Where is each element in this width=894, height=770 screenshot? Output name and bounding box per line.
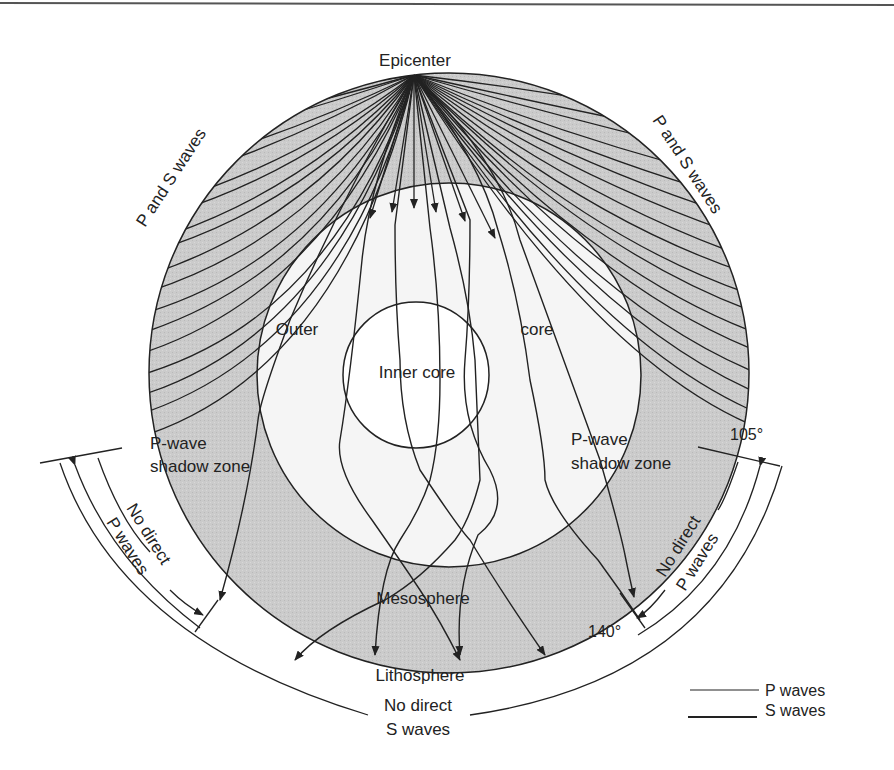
no-direct-s-line1: No direct xyxy=(384,696,452,715)
outer-core-label: Outer xyxy=(276,320,319,339)
legend-p-wave-label: P waves xyxy=(765,682,825,699)
angle-105-label: 105° xyxy=(730,426,763,443)
legend: P waves S waves xyxy=(688,682,825,719)
shadow-zone-left-line2: shadow zone xyxy=(150,457,250,476)
epicenter-label: Epicenter xyxy=(379,51,451,70)
inner-core-label: Inner core xyxy=(379,363,456,382)
mesosphere-label: Mesosphere xyxy=(376,589,470,608)
no-direct-s-line2: S waves xyxy=(386,720,450,739)
earth-seismic-wave-diagram: Epicenter P and S waves P and S waves Ou… xyxy=(0,0,894,770)
lithosphere-label: Lithosphere xyxy=(376,666,465,685)
shadow-zone-left-line1: P-wave xyxy=(150,434,207,453)
legend-s-wave-label: S waves xyxy=(765,702,825,719)
shadow-zone-right-line1: P-wave xyxy=(571,430,628,449)
core-label: core xyxy=(520,320,553,339)
angle-140-label: 140° xyxy=(588,623,621,640)
top-rule xyxy=(0,3,894,5)
shadow-zone-right-line2: shadow zone xyxy=(571,454,671,473)
